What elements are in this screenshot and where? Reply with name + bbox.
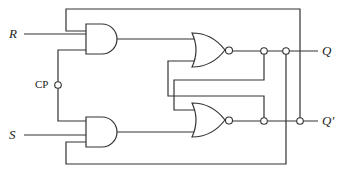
sr-flip-flop-diagram: R S CP Q Q′ bbox=[0, 0, 343, 173]
circuit-canvas bbox=[0, 0, 343, 173]
node-qbar-2 bbox=[297, 118, 304, 125]
and-gate-bottom bbox=[86, 117, 117, 147]
label-s: S bbox=[9, 127, 16, 143]
nor-top-bubble bbox=[226, 47, 233, 54]
nor-gate-bottom bbox=[192, 103, 225, 137]
cross-wire-q-to-nor-bottom bbox=[174, 51, 264, 110]
label-cp: CP bbox=[35, 78, 48, 90]
node-q-2 bbox=[283, 48, 290, 55]
clock-wire bbox=[58, 50, 86, 121]
nor-bottom-bubble bbox=[226, 117, 233, 124]
label-r: R bbox=[9, 26, 17, 42]
nor-gate-top bbox=[192, 33, 225, 67]
node-q-1 bbox=[261, 48, 268, 55]
and-gate-top bbox=[86, 24, 117, 54]
label-q-bar: Q′ bbox=[322, 113, 334, 129]
label-q: Q bbox=[322, 43, 331, 59]
clock-terminal bbox=[55, 82, 62, 89]
node-qbar-1 bbox=[261, 118, 268, 125]
